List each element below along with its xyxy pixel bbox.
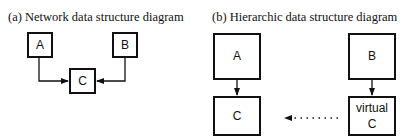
connector-arrows: [0, 0, 404, 139]
arrow-b-to-c: [97, 58, 125, 81]
arrow-a-to-c: [39, 58, 68, 81]
